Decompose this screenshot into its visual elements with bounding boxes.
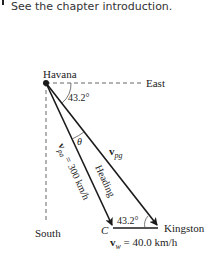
- angle-arc-bottom: [145, 216, 148, 228]
- south-label: South: [35, 227, 61, 239]
- havana-point: [43, 80, 49, 86]
- east-label: East: [146, 77, 165, 89]
- v-pg-label: vpg: [109, 145, 123, 160]
- vector-diagram: Havana East South Kingston C 43.2° 43.2°…: [0, 0, 210, 262]
- kingston-label: Kingston: [164, 222, 205, 234]
- v-w-label: vw = 40.0 km/h: [110, 236, 178, 251]
- v-pa-label: vpa = 300 km/h: [53, 141, 92, 202]
- havana-label: Havana: [43, 68, 77, 80]
- angle-top-label: 43.2°: [68, 92, 90, 103]
- theta-label: θ: [77, 136, 82, 147]
- angle-bottom-label: 43.2°: [117, 215, 139, 226]
- c-point-label: C: [101, 224, 109, 236]
